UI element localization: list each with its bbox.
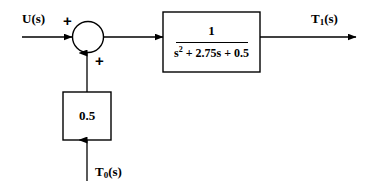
gain-block-value: 0.5 bbox=[63, 109, 111, 122]
denominator-rest: + 2.75s + 0.5 bbox=[183, 46, 249, 60]
summing-junction-feedback-sign: + bbox=[95, 53, 104, 68]
denominator-exponent: 2 bbox=[179, 45, 183, 54]
input-signal-label: U(s) bbox=[22, 12, 45, 25]
disturbance-signal-label: T0(s) bbox=[95, 165, 122, 178]
disturbance-signal-subscript: 0 bbox=[104, 170, 109, 180]
output-signal-label: T1(s) bbox=[311, 12, 338, 25]
output-signal-tail: (s) bbox=[324, 11, 338, 26]
denominator-s-term: s bbox=[174, 46, 179, 60]
output-signal-subscript: 1 bbox=[320, 17, 325, 27]
block-diagram-canvas: U(s) + + 1 s2 + 2.75s + 0.5 0.5 T1(s) T0… bbox=[0, 0, 366, 192]
disturbance-signal-base: T bbox=[95, 164, 104, 179]
plant-transfer-function: 1 s2 + 2.75s + 0.5 bbox=[163, 12, 260, 72]
output-signal-base: T bbox=[311, 11, 320, 26]
summing-junction-circle bbox=[73, 22, 104, 53]
summing-junction-input-sign: + bbox=[63, 13, 72, 28]
transfer-function-denominator: s2 + 2.75s + 0.5 bbox=[174, 46, 249, 61]
transfer-function-numerator: 1 bbox=[208, 23, 215, 39]
disturbance-signal-tail: (s) bbox=[108, 164, 122, 179]
fraction-bar bbox=[176, 42, 248, 43]
